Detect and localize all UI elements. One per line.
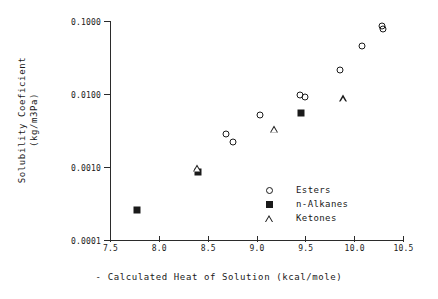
legend-marker-filled-square-icon [258,201,280,208]
y-axis-tick-label: 0.0010 [71,163,104,172]
legend-swatch-shape [266,187,273,194]
legend-marker-open-circle-icon [258,187,280,194]
data-point-n-alkanes [134,206,141,213]
x-axis-tick-label: 9.0 [249,244,264,253]
legend-item-esters: Esters [258,183,388,197]
legend-swatch-shape [266,201,273,208]
x-axis-tick-label: 8.5 [201,244,216,253]
scatter-plot-figure: 0.10000.01000.00100.0001 7.58.08.59.09.5… [0,0,438,299]
x-axis-tick: 10.5 [403,236,404,242]
legend: Estersn-AlkanesKetones [258,183,388,225]
y-axis-title: Solubility Coeficient (kg/m3Pa) [16,20,40,220]
data-point-esters [337,67,344,74]
data-point-esters [358,43,365,50]
data-point-esters [230,139,237,146]
x-axis-tick-label: 8.0 [152,244,167,253]
legend-marker-open-triangle-icon [258,215,280,222]
data-point-n-alkanes [298,109,305,116]
x-axis-title: - Calculated Heat of Solution (kcal/mole… [0,272,438,282]
legend-item-ketones: Ketones [258,211,388,225]
data-point-ketones [270,125,278,132]
legend-label: n-Alkanes [280,199,348,209]
data-point-esters [257,111,264,118]
x-axis-tick-label: 10.0 [345,244,365,253]
data-point-ketones [193,164,201,171]
legend-label: Esters [280,185,331,195]
y-axis-tick-label: 0.1000 [71,17,104,26]
data-point-esters [302,93,309,100]
legend-swatch-shape [265,215,273,222]
y-axis-tick-label: 0.0100 [71,90,104,99]
x-axis-tick-label: 10.5 [393,244,413,253]
x-axis-tick-label: 9.5 [298,244,313,253]
data-point-esters [223,131,230,138]
legend-item-n-alkanes: n-Alkanes [258,197,388,211]
y-axis-title-line2: (kg/m3Pa) [28,20,40,220]
data-point-esters [380,25,387,32]
data-point-ketones [339,95,347,102]
y-axis-tick-label: 0.0001 [71,236,104,245]
x-axis-tick-label: 7.5 [103,244,118,253]
y-axis-title-line1: Solubility Coeficient [17,57,27,183]
legend-label: Ketones [280,213,337,223]
